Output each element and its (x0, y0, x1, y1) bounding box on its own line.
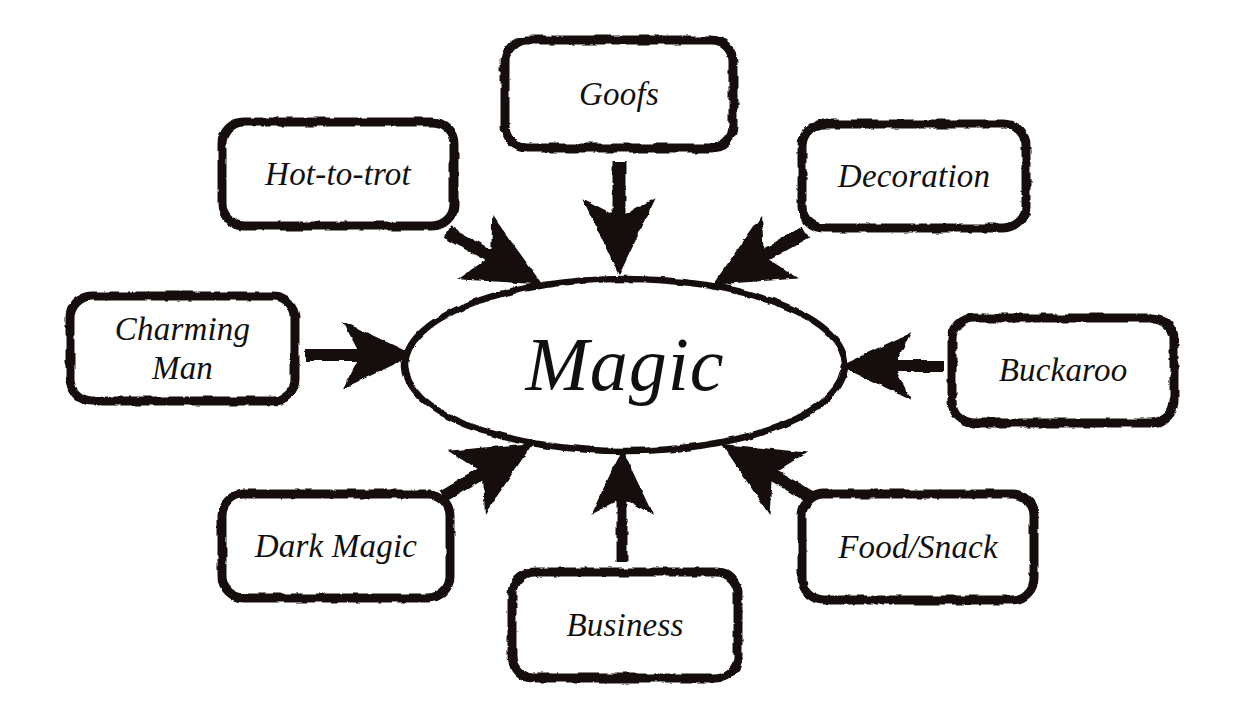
node-shape-dark-magic (222, 494, 450, 598)
arrow-hot-to-trot-to-magic (447, 232, 527, 276)
arrow-decoration-to-magic (728, 232, 806, 276)
node-shape-business (512, 572, 738, 678)
node-shape-decoration (802, 124, 1026, 228)
diagram-graphics (0, 0, 1242, 724)
center-ellipse-shape (405, 279, 845, 451)
node-shape-food-snack (802, 494, 1034, 600)
node-shape-hot-to-trot (222, 122, 454, 226)
node-shape-charming-man (70, 296, 295, 401)
node-shape-goofs (505, 40, 733, 148)
arrow-food-snack-to-magic (737, 453, 812, 498)
node-shape-buckaroo (952, 318, 1174, 423)
arrow-dark-magic-to-magic (443, 452, 518, 496)
diagram-canvas: Magic Goofs Hot-to-trot Decoration Charm… (0, 0, 1242, 724)
